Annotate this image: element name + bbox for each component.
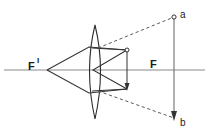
- object-arrowhead-icon: [171, 111, 177, 121]
- dashed-ray-to-point-b: [98, 91, 174, 118]
- label-object-bottom-b: b: [180, 117, 186, 128]
- ray-upper-path: [47, 47, 127, 70]
- image-top-point-marker: [125, 48, 129, 52]
- label-focal-right: F: [150, 58, 157, 70]
- label-object-top-a: a: [180, 9, 186, 20]
- label-focal-left-prime: I: [37, 56, 39, 65]
- dashed-ray-to-point-a: [98, 17, 174, 48]
- biconvex-lens-shape: [90, 25, 101, 119]
- optics-ray-diagram: F I F a b: [0, 0, 209, 136]
- object-top-point-marker: [172, 15, 176, 19]
- image-arrowhead-icon: [125, 83, 130, 91]
- ray-diagram-canvas: F I F a b: [0, 0, 209, 136]
- label-focal-left: F: [28, 60, 35, 72]
